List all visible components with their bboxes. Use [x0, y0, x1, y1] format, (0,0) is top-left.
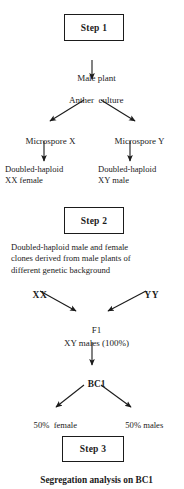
step-3-label: Step 3 [80, 444, 106, 454]
node-f1-description: XY males (100%) [0, 327, 184, 359]
dh-male-line-1: Doubled-haploid [98, 164, 184, 175]
node-bc1: BC1 [0, 368, 184, 401]
parent-xx-label: XX [32, 290, 47, 300]
node-parent-yy: YY [126, 279, 166, 313]
step-2-description: Doubled-haploid male and female clones d… [11, 242, 183, 276]
parent-yy-label: YY [144, 290, 159, 300]
step-2-desc-line-3: different genetic background [11, 265, 183, 276]
step-2-label: Step 2 [81, 216, 107, 226]
step-2-desc-line-2: clones derived from male plants of [11, 253, 183, 264]
node-dh-xx-female: Doubled-haploid XX female [5, 164, 95, 187]
step-2-desc-line-1: Doubled-haploid male and female [11, 242, 183, 253]
microspore-x-label: Microspore X [25, 136, 75, 146]
microspore-y-label: Microspore Y [115, 136, 165, 146]
conclusion-label: Segregation analysis on BC1 [40, 475, 153, 485]
node-conclusion: Segregation analysis on BC1 [0, 464, 184, 489]
node-microspore-x: Microspore X [0, 125, 92, 157]
dh-female-line-2: XX female [5, 175, 95, 186]
step-1-box: Step 1 [64, 14, 124, 41]
node-anther-culture: Anther culture [0, 84, 184, 116]
node-parent-xx: XX [14, 279, 54, 313]
dh-male-line-2: XY male [98, 175, 184, 186]
dh-female-line-1: Doubled-haploid [5, 164, 95, 175]
bc1-label: BC1 [88, 379, 106, 389]
anther-culture-label: Anther culture [69, 95, 123, 105]
male-plant-label: Male plant [77, 73, 116, 83]
step-2-box: Step 2 [64, 207, 124, 234]
node-microspore-y: Microspore Y [88, 125, 182, 157]
bc1-male-label: 50% males [125, 420, 163, 430]
node-dh-xy-male: Doubled-haploid XY male [98, 164, 184, 187]
step-3-box: Step 3 [62, 436, 124, 462]
bc1-female-label: 50% female [34, 420, 77, 430]
f1-description-label: XY males (100%) [64, 338, 129, 348]
step-1-label: Step 1 [81, 23, 107, 33]
